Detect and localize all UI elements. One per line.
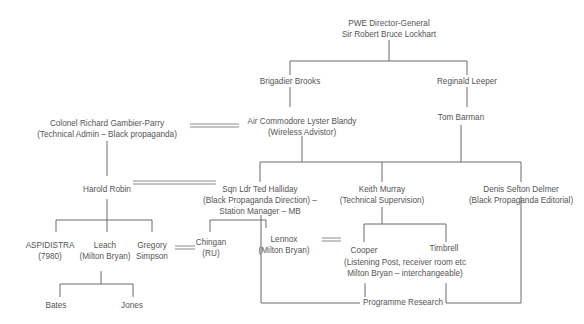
node-aspidistra: ASPIDISTRA (7980) — [26, 240, 75, 262]
node-chingan-name: Chingan — [196, 237, 227, 248]
node-blandy: Air Commodore Lyster Blandy (Wireless Ad… — [248, 116, 357, 138]
node-leach-location: (Milton Bryan) — [80, 251, 131, 262]
node-lockhart-title: PWE Director-General — [342, 18, 436, 29]
node-simpson: Gregory Simpson — [136, 240, 168, 262]
node-brooks-name: Brigadier Brooks — [260, 76, 321, 87]
node-lockhart: PWE Director-General Sir Robert Bruce Lo… — [342, 18, 436, 40]
node-listening-post: (Listening Post, receiver room etc Milto… — [344, 257, 466, 279]
node-aspidistra-freq: (7980) — [26, 251, 75, 262]
node-simpson-last: Simpson — [136, 251, 168, 262]
node-murray-name: Keith Murray — [340, 184, 425, 195]
node-cooper: Cooper — [351, 245, 378, 256]
node-leeper: Reginald Leeper — [437, 76, 497, 87]
node-halliday-name: Sqn Ldr Ted Halliday — [203, 184, 317, 195]
node-chingan-org: (RU) — [196, 248, 227, 259]
node-timbrell-name: Timbrell — [430, 243, 459, 254]
node-murray: Keith Murray (Technical Supervision) — [340, 184, 425, 206]
node-lockhart-name: Sir Robert Bruce Lockhart — [342, 29, 436, 40]
node-robin: Harold Robin — [83, 184, 131, 195]
node-bates-name: Bates — [46, 300, 67, 311]
node-delmer-role: (Black Propaganda Editorial) — [469, 195, 573, 206]
node-gambier-parry: Colonel Richard Gambier-Parry (Technical… — [37, 118, 177, 140]
node-timbrell: Timbrell — [430, 243, 459, 254]
node-leeper-name: Reginald Leeper — [437, 76, 497, 87]
node-gambier-role: (Technical Admin – Black propaganda) — [37, 129, 177, 140]
node-delmer-name: Denis Sefton Delmer — [469, 184, 573, 195]
node-simpson-first: Gregory — [136, 240, 168, 251]
node-gambier-name: Colonel Richard Gambier-Parry — [37, 118, 177, 129]
node-leach-name: Leach — [80, 240, 131, 251]
node-halliday-role: (Black Propaganda Direction) – — [203, 195, 317, 206]
node-brooks: Brigadier Brooks — [260, 76, 321, 87]
node-murray-role: (Technical Supervision) — [340, 195, 425, 206]
node-lennox-name: Lennox — [259, 234, 310, 245]
node-halliday: Sqn Ldr Ted Halliday (Black Propaganda D… — [203, 184, 317, 217]
node-listening-desc1: (Listening Post, receiver room etc — [344, 257, 466, 268]
node-programme-research: Programme Research — [363, 297, 443, 308]
node-barman: Tom Barman — [438, 112, 484, 123]
node-robin-name: Harold Robin — [83, 184, 131, 195]
node-cooper-name: Cooper — [351, 245, 378, 256]
node-halliday-station: Station Manager – MB — [203, 206, 317, 217]
node-listening-desc2: Milton Bryan – interchangeable) — [344, 268, 466, 279]
node-barman-name: Tom Barman — [438, 112, 484, 123]
node-chingan: Chingan (RU) — [196, 237, 227, 259]
node-blandy-name: Air Commodore Lyster Blandy — [248, 116, 357, 127]
node-bates: Bates — [46, 300, 67, 311]
node-jones: Jones — [121, 300, 143, 311]
node-leach: Leach (Milton Bryan) — [80, 240, 131, 262]
node-lennox: Lennox (Milton Bryan) — [259, 234, 310, 256]
node-jones-name: Jones — [121, 300, 143, 311]
node-blandy-role: (Wireless Advistor) — [248, 127, 357, 138]
node-lennox-location: (Milton Bryan) — [259, 245, 310, 256]
node-aspidistra-name: ASPIDISTRA — [26, 240, 75, 251]
node-delmer: Denis Sefton Delmer (Black Propaganda Ed… — [469, 184, 573, 206]
connector-lines — [0, 0, 584, 324]
node-research-name: Programme Research — [363, 297, 443, 308]
